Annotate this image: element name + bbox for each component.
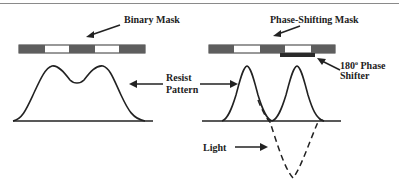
- binary-mask-opaque-3: [119, 45, 145, 53]
- light-arrow: [235, 143, 268, 151]
- phase-shifting-mask: [209, 45, 335, 57]
- phase-shifter-block: [280, 53, 315, 57]
- diagram-canvas: [0, 0, 399, 192]
- binary-mask: [19, 45, 145, 53]
- psm-resist-curve-right: [272, 66, 324, 121]
- light-label: Light: [203, 142, 226, 153]
- psm-opaque-2: [260, 45, 285, 53]
- binary-mask-opaque-1: [19, 45, 45, 53]
- binary-mask-label: Binary Mask: [124, 14, 180, 25]
- resist-label-line1: Resist: [166, 72, 192, 83]
- resist-label-line2: Pattern: [166, 84, 198, 95]
- phase-shifter-label-line2: Shifter: [340, 70, 369, 81]
- psm-opaque-3: [311, 45, 335, 53]
- resist-arrow-right: [200, 80, 238, 88]
- psm-opaque-1: [209, 45, 234, 53]
- phase-shifting-mask-label: Phase-Shifting Mask: [270, 14, 359, 25]
- psm-arrow: [273, 26, 300, 37]
- binary-mask-arrow: [86, 25, 120, 38]
- resist-arrow: [129, 80, 163, 88]
- binary-resist-curve: [13, 66, 145, 121]
- shifter-arrow: [317, 58, 340, 70]
- binary-mask-opaque-2: [69, 45, 95, 53]
